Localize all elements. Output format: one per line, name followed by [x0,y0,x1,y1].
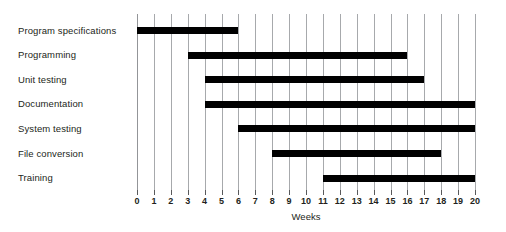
x-axis-tick [255,190,256,195]
task-label: System testing [18,123,82,134]
x-axis-tick-label: 5 [219,196,224,207]
x-axis-tick-label: 1 [151,196,156,207]
x-axis-tick [475,190,476,195]
x-axis-tick-label: 3 [185,196,190,207]
x-axis-tick [424,190,425,195]
x-axis-tick [238,190,239,195]
gantt-bar [238,125,475,132]
x-axis-tick-label: 4 [202,196,207,207]
task-label-column: Program specificationsProgrammingUnit te… [0,0,137,232]
x-axis-tick-label: 0 [134,196,139,207]
gantt-bar [205,76,425,83]
gridline-week-1 [154,14,155,190]
x-axis-tick-label: 12 [335,196,345,207]
x-axis-tick-label: 2 [168,196,173,207]
x-axis-tick [306,190,307,195]
x-axis-tick [289,190,290,195]
x-axis-tick-label: 6 [236,196,241,207]
task-label: File conversion [18,148,83,159]
x-axis-tick [323,190,324,195]
x-axis-title: Weeks [137,211,475,222]
x-axis-tick [407,190,408,195]
task-label: Documentation [18,98,83,109]
x-axis-tick-label: 15 [385,196,395,207]
task-label: Program specifications [18,25,116,36]
gridline-week-3 [188,14,189,190]
x-axis-tick-label: 14 [369,196,379,207]
x-axis-tick-label: 20 [470,196,480,207]
gantt-chart: Program specificationsProgrammingUnit te… [0,0,506,232]
plot-area [137,14,475,190]
x-axis-tick-label: 19 [453,196,463,207]
x-axis-tick [171,190,172,195]
x-axis-tick [357,190,358,195]
x-axis-tick-label: 7 [253,196,258,207]
x-axis-tick-label: 18 [436,196,446,207]
x-axis-tick-label: 13 [352,196,362,207]
x-axis-tick-label: 10 [301,196,311,207]
x-axis-tick [272,190,273,195]
gridline-week-0 [137,14,138,190]
x-axis-tick [188,190,189,195]
gridline-week-20 [475,14,476,190]
x-axis-tick-label: 11 [318,196,328,207]
gridline-week-2 [171,14,172,190]
x-axis-tick [441,190,442,195]
task-label: Programming [18,49,76,60]
x-axis-tick-label: 9 [287,196,292,207]
x-axis-tick-label: 16 [402,196,412,207]
x-axis-tick-label: 17 [419,196,429,207]
gantt-bar [272,150,441,157]
x-axis-tick [374,190,375,195]
gantt-bar [323,175,475,182]
gantt-bar [205,101,475,108]
task-label: Training [18,172,53,183]
gantt-bar [137,27,238,34]
gantt-bar [188,52,408,59]
x-axis-tick [391,190,392,195]
x-axis-tick [340,190,341,195]
x-axis-tick [137,190,138,195]
x-axis-tick [458,190,459,195]
x-axis: Weeks 01234567891011121314151617181920 [137,190,475,232]
task-label: Unit testing [18,74,67,85]
x-axis-tick [154,190,155,195]
x-axis-tick [205,190,206,195]
x-axis-tick [222,190,223,195]
x-axis-tick-label: 8 [270,196,275,207]
